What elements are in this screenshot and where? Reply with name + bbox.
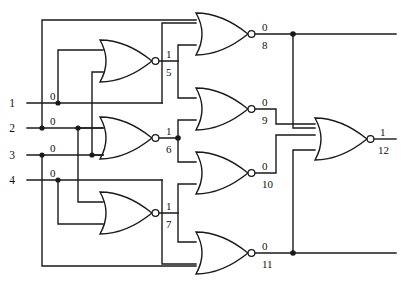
- gate-8-label: 8: [262, 39, 268, 51]
- wire-g7-to-g11: [178, 213, 196, 242]
- input-3-label: 3: [9, 149, 15, 161]
- wire-g5-to-g9: [178, 61, 196, 98]
- gate-6-label: 6: [166, 143, 172, 155]
- gate-8-body[interactable]: [196, 13, 255, 55]
- input-3-value: 0: [50, 142, 56, 154]
- input-2-label: 2: [9, 122, 15, 134]
- circuit-canvas: 1 2 3 4 0 0 0 0 1 5 1 6 1 7 0 8 0 9 0 10…: [0, 0, 402, 290]
- wire-g6-to-g9: [159, 120, 196, 138]
- bus-wire-in2-to-gate7: [78, 128, 103, 202]
- junction-in2-left: [39, 125, 44, 130]
- input-2-value: 0: [50, 115, 56, 127]
- gate-10-body[interactable]: [196, 152, 255, 194]
- junction-in3-mid: [89, 152, 94, 157]
- gate-11-label: 11: [262, 258, 273, 270]
- gate-11-body[interactable]: [196, 232, 255, 274]
- gate-6-value: 1: [166, 125, 172, 137]
- input-1-value: 0: [50, 90, 56, 102]
- gate-8-invert-bubble: [248, 31, 255, 38]
- input-4-value: 0: [50, 167, 56, 179]
- gate-10-value: 0: [262, 160, 268, 172]
- gate-5-label: 5: [166, 66, 172, 78]
- gate-6-invert-bubble: [152, 135, 159, 142]
- gate-7-body[interactable]: [100, 192, 159, 234]
- wire-g5-to-g8: [159, 45, 196, 61]
- gate-9-body[interactable]: [196, 88, 255, 130]
- wire-g6-to-g10: [178, 138, 196, 162]
- gate-9-label: 9: [262, 114, 268, 126]
- gate-10-label: 10: [262, 178, 274, 190]
- gate-8-value: 0: [262, 21, 268, 33]
- gate-12-body[interactable]: [315, 118, 374, 160]
- gate-9-invert-bubble: [248, 106, 255, 113]
- gate-6-body[interactable]: [100, 117, 159, 159]
- gate-9-value: 0: [262, 96, 268, 108]
- gate-7-label: 7: [166, 218, 172, 230]
- junction-in3-left: [39, 152, 44, 157]
- gate-11-value: 0: [262, 240, 268, 252]
- gate-5-value: 1: [166, 48, 172, 60]
- input-1-label: 1: [9, 97, 15, 109]
- gate-11-invert-bubble: [248, 250, 255, 257]
- wire-in1-to-gate8: [162, 23, 196, 103]
- gate-12-invert-bubble: [367, 136, 374, 143]
- junction-in4: [55, 177, 60, 182]
- gate-12-label: 12: [378, 144, 389, 156]
- junction-in1: [55, 100, 60, 105]
- gate-7-value: 1: [166, 200, 172, 212]
- logic-circuit-diagram: 1 2 3 4 0 0 0 0 1 5 1 6 1 7 0 8 0 9 0 10…: [0, 0, 402, 290]
- gate-12-value: 1: [380, 126, 386, 138]
- input-4-label: 4: [9, 174, 15, 186]
- wire-g7-to-g10: [159, 184, 196, 213]
- junction-in2-mid: [75, 125, 80, 130]
- gate-5-body[interactable]: [100, 40, 159, 82]
- gate-7-invert-bubble: [152, 210, 159, 217]
- bus-wire-in3-to-gate5: [92, 72, 103, 155]
- bus-wire-in1-to-gate5: [58, 50, 103, 103]
- gate-10-invert-bubble: [248, 170, 255, 177]
- gate-5-invert-bubble: [152, 58, 159, 65]
